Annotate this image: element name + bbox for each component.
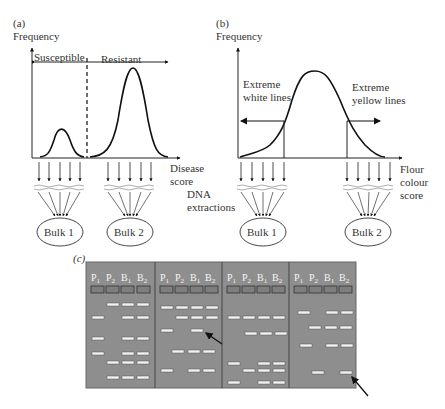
bulk2-label-b: Bulk 2 — [352, 226, 382, 238]
panel-a-ylabel: Frequency — [13, 30, 59, 42]
white-annot-1: Extreme — [243, 78, 280, 90]
score-label: score — [170, 175, 193, 187]
panel-c-label: (c) — [73, 252, 85, 264]
panel-a-bulk1-arrows — [39, 162, 80, 181]
bulk2-label-a: Bulk 2 — [114, 226, 144, 238]
colour-label: colour — [400, 176, 428, 188]
panel-a-label: (a) — [13, 17, 25, 29]
flour-label: Flour — [400, 163, 424, 175]
dna-strands-a — [34, 185, 154, 190]
panel-a-bulk2-arrows — [108, 162, 151, 181]
panel-c-gel: P1P2B1B2 P1P2B1B2 P1P2B1B2 P1P2B1B2 — [86, 262, 368, 396]
dna-label: DNA — [187, 188, 211, 200]
white-annot-2: white lines — [243, 91, 291, 103]
yellow-annot-2: yellow lines — [352, 94, 405, 106]
score-label-b: score — [400, 189, 423, 201]
disease-label: Disease — [170, 162, 204, 174]
panel-b-ylabel: Frequency — [216, 30, 262, 42]
bulk1-label-a: Bulk 1 — [44, 226, 74, 238]
bulk1-label-b: Bulk 1 — [247, 226, 277, 238]
susceptible-label: Susceptible — [34, 51, 85, 63]
panel-b-label: (b) — [216, 17, 229, 29]
resistant-label: Resistant — [101, 53, 141, 65]
panel-a-chart — [32, 48, 180, 246]
yellow-annot-1: Extreme — [352, 81, 389, 93]
extractions-label: extractions — [187, 201, 235, 213]
